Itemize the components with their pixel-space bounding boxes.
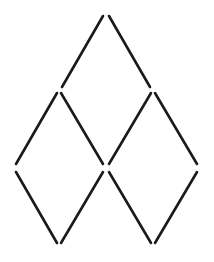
matchstick-diagram — [0, 0, 214, 262]
matchstick-right-lower-right — [155, 172, 197, 243]
matchstick-left-upper-right — [61, 93, 103, 164]
matchstick-right-upper-right — [155, 93, 197, 164]
matchstick-top-left — [62, 16, 103, 87]
matchstick-right-upper-left — [109, 93, 151, 164]
matchstick-left-lower-left — [16, 172, 57, 243]
matchstick-group — [16, 16, 197, 243]
matchstick-left-upper-left — [16, 93, 57, 164]
matchstick-left-lower-right — [61, 172, 103, 243]
matchstick-right-lower-left — [109, 172, 151, 243]
matchstick-top-right — [109, 16, 150, 87]
